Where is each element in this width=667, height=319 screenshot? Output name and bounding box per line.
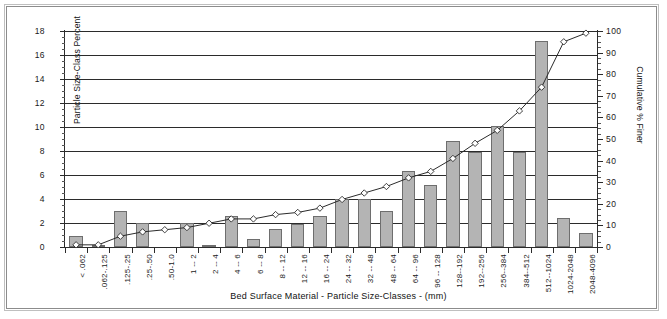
y-axis-left-tick-label: 2: [40, 219, 45, 227]
x-axis-tick-label: 128--192: [456, 254, 464, 288]
y-axis-right-minor-tick: [598, 63, 601, 64]
x-axis-tick-label: 256--384: [500, 254, 508, 288]
y-axis-right-minor-tick: [598, 150, 601, 151]
cumulative-line-series: [65, 31, 597, 247]
x-axis-tick: [242, 248, 243, 253]
y-axis-left-tick-label: 16: [35, 51, 45, 59]
data-point-marker: [339, 196, 345, 202]
x-axis-tick-label: 16 -- 24: [323, 254, 331, 283]
y-axis-right-minor-tick: [598, 90, 601, 91]
data-point-marker: [472, 140, 478, 146]
y-axis-right-tick: [598, 96, 603, 97]
y-axis-right-minor-tick: [598, 209, 601, 210]
y-axis-right-minor-tick: [598, 155, 601, 156]
x-axis-tick-label: 1024-2048: [567, 254, 575, 294]
x-axis-tick-label: 2048-4096: [589, 254, 597, 294]
x-axis-tick-label: 1 -- 2: [190, 254, 198, 274]
y-axis-right-tick: [598, 53, 603, 54]
x-axis-tick-label: 4 -- 6: [234, 254, 242, 274]
y-axis-right-minor-tick: [598, 134, 601, 135]
y-axis-right-tick: [598, 204, 603, 205]
x-axis-tick-label: 12 -- 16: [301, 254, 309, 283]
x-axis-tick: [420, 248, 421, 253]
y-axis-right-minor-tick: [598, 198, 601, 199]
data-point-marker: [250, 216, 256, 222]
y-axis-right-minor-tick: [598, 193, 601, 194]
x-axis-tick: [553, 248, 554, 253]
y-axis-right-tick: [598, 139, 603, 140]
x-axis-tick: [375, 248, 376, 253]
x-axis-tick: [597, 248, 598, 253]
x-axis-tick-label: 64 -- 96: [412, 254, 420, 283]
data-point-marker: [583, 30, 589, 36]
y-axis-left-tick-label: 6: [40, 171, 45, 179]
y-axis-right-minor-tick: [598, 42, 601, 43]
data-point-marker: [405, 175, 411, 181]
y-axis-right-tick: [598, 117, 603, 118]
x-axis-tick-label: 384--512: [523, 254, 531, 288]
x-axis-title: Bed Surface Material - Particle Size-Cla…: [5, 291, 667, 301]
y-axis-left-tick-label: 18: [35, 27, 45, 35]
x-axis-tick: [154, 248, 155, 253]
x-axis-tick-label: 6 -- 8: [257, 254, 265, 274]
y-axis-right-tick: [598, 31, 603, 32]
y-axis-right-minor-tick: [598, 123, 601, 124]
x-axis-tick: [287, 248, 288, 253]
x-axis-tick-label: 24 -- 32: [345, 254, 353, 283]
y-axis-right-minor-tick: [598, 177, 601, 178]
data-point-marker: [117, 233, 123, 239]
data-point-marker: [383, 183, 389, 189]
y-axis-right-minor-tick: [598, 101, 601, 102]
data-point-marker: [162, 227, 168, 233]
x-axis-tick: [109, 248, 110, 253]
x-axis-tick-label: .062-.125: [101, 254, 109, 290]
x-axis-tick: [176, 248, 177, 253]
x-axis-tick-label: 192--256: [478, 254, 486, 288]
x-axis-tick: [442, 248, 443, 253]
x-axis-tick-label: 2 -- 4: [212, 254, 220, 274]
x-axis-tick: [508, 248, 509, 253]
x-axis-tick-label: 48 -- 64: [390, 254, 398, 283]
y-axis-right-minor-tick: [598, 85, 601, 86]
data-point-marker: [450, 155, 456, 161]
y-axis-left-tick-label: 12: [35, 99, 45, 107]
y-axis-right-tick-label: 30: [606, 178, 616, 186]
y-axis-right-minor-tick: [598, 215, 601, 216]
y-axis-right-tick-label: 100: [606, 27, 621, 35]
x-axis-tick: [398, 248, 399, 253]
y-axis-right-tick-label: 0: [606, 243, 611, 251]
y-axis-right-tick: [598, 225, 603, 226]
y-axis-right-minor-tick: [598, 231, 601, 232]
x-axis-tick: [464, 248, 465, 253]
x-axis-tick: [65, 248, 66, 253]
y-axis-right-tick-label: 70: [606, 92, 616, 100]
x-axis-tick: [265, 248, 266, 253]
y-axis-right-minor-tick: [598, 166, 601, 167]
x-axis-tick-label: .25-.50: [146, 254, 154, 280]
y-axis-right-tick: [598, 247, 603, 248]
y-axis-right-minor-tick: [598, 236, 601, 237]
cumulative-line: [76, 33, 586, 245]
x-axis-tick-label: .50-1.0: [168, 254, 176, 280]
y-axis-right-minor-tick: [598, 112, 601, 113]
y-axis-right-tick-label: 50: [606, 135, 616, 143]
data-point-marker: [228, 216, 234, 222]
y-axis-right-minor-tick: [598, 171, 601, 172]
x-axis-tick: [486, 248, 487, 253]
x-axis-tick-label: .125-.25: [124, 254, 132, 285]
x-axis-tick: [309, 248, 310, 253]
y-axis-left-tick-label: 4: [40, 195, 45, 203]
y-axis-right-minor-tick: [598, 128, 601, 129]
x-axis-tick: [198, 248, 199, 253]
y-axis-right-minor-tick: [598, 36, 601, 37]
y-axis-right-tick-label: 60: [606, 113, 616, 121]
x-axis-tick: [531, 248, 532, 253]
data-point-marker: [184, 224, 190, 230]
data-point-marker: [295, 209, 301, 215]
y-axis-right-minor-tick: [598, 144, 601, 145]
y-axis-right-minor-tick: [598, 242, 601, 243]
y-axis-right-minor-tick: [598, 107, 601, 108]
data-point-marker: [561, 39, 567, 45]
y-axis-right-tick: [598, 161, 603, 162]
y-axis-left-tick-label: 8: [40, 147, 45, 155]
